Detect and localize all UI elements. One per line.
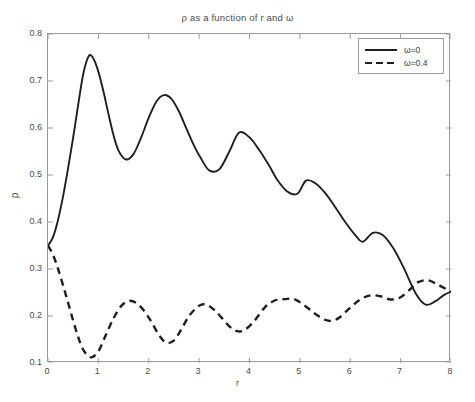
x-tick-4: 4 [237,366,261,376]
axis-ticks [48,34,451,363]
x-tick-3: 3 [186,366,210,376]
legend-item[interactable]: ω=0.4 [364,56,438,69]
y-tick-2: 0.3 [8,263,42,273]
series-line-omega-04 [48,246,451,358]
x-tick-1: 1 [85,366,109,376]
y-tick-6: 0.7 [8,75,42,85]
series-line-omega-0 [48,55,451,305]
x-tick-2: 2 [136,366,160,376]
y-tick-1: 0.2 [8,310,42,320]
legend-item[interactable]: ω=0 [364,43,438,56]
y-tick-5: 0.6 [8,122,42,132]
legend-swatch-solid [364,45,398,55]
x-tick-7: 7 [388,366,412,376]
legend-label-omega-0: ω=0 [404,45,420,55]
plot-canvas [48,34,451,363]
legend-swatch-dashed [364,58,398,68]
y-axis-label: ρ [9,176,20,216]
x-tick-5: 5 [287,366,311,376]
chart-title: ρ as a function of r and ω [0,12,475,23]
x-tick-8: 8 [438,366,462,376]
x-axis-label: r [0,378,475,388]
x-tick-0: 0 [35,366,59,376]
legend-box: ω=0 ω=0.4 [358,38,444,74]
y-tick-4: 0.5 [8,169,42,179]
data-series-group [48,55,451,357]
chart-figure: ρ as a function of r and ω ρ r 0.10.20.3… [0,0,475,402]
y-tick-3: 0.4 [8,216,42,226]
plot-area [47,33,450,362]
legend-label-omega-04: ω=0.4 [404,58,427,68]
x-tick-6: 6 [337,366,361,376]
y-tick-7: 0.8 [8,28,42,38]
